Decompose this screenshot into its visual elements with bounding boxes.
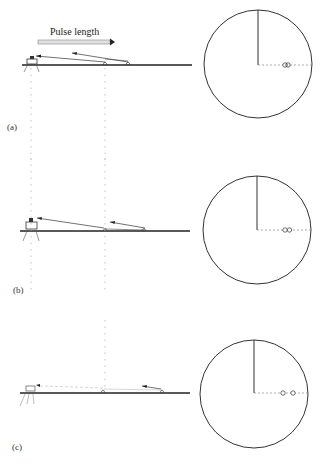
scope-display-c bbox=[200, 340, 308, 448]
radar-instrument-icon bbox=[24, 56, 39, 72]
echo-blip bbox=[281, 391, 285, 395]
panel-label-b: (b) bbox=[13, 285, 24, 295]
pulse-length-arrow bbox=[38, 39, 115, 46]
panel-label-c: (c) bbox=[12, 442, 22, 452]
scope-display-b bbox=[203, 176, 311, 284]
echo-blip bbox=[287, 228, 291, 232]
radar-instrument-icon bbox=[20, 384, 40, 406]
panel-b bbox=[20, 158, 311, 290]
pulse-resolution-diagram bbox=[0, 0, 320, 465]
scope-display-a bbox=[204, 10, 312, 118]
pulse-length-label: Pulse length bbox=[50, 26, 99, 37]
echo-blip bbox=[291, 391, 295, 395]
echo-blip bbox=[283, 228, 287, 232]
panel-c bbox=[20, 320, 308, 448]
panel-label-a: (a) bbox=[7, 122, 17, 132]
